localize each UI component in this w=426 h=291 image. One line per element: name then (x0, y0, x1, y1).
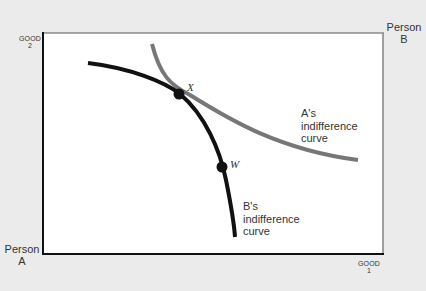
b-curve-label-line2: indifference (243, 213, 300, 226)
person-b-line2: B (384, 34, 424, 46)
b-curve-label: B's indifference curve (243, 200, 300, 238)
point-w-label: W (230, 158, 239, 170)
point-x (174, 89, 185, 100)
good1-label-line1: GOOD (356, 260, 382, 267)
b-curve-label-line3: curve (243, 225, 300, 238)
point-x-label: X (187, 81, 194, 93)
person-b-origin-label: Person B (384, 22, 424, 45)
good2-label-line1: GOOD (17, 35, 43, 42)
person-b-line1: Person (384, 22, 424, 34)
a-curve-label: A's indifference curve (301, 107, 358, 145)
good2-axis-label: GOOD 2 (17, 35, 43, 50)
point-w (217, 162, 228, 173)
diagram-canvas (0, 0, 426, 291)
a-curve-label-line3: curve (301, 132, 358, 145)
b-curve-label-line1: B's (243, 200, 300, 213)
person-a-line1: Person (2, 244, 42, 256)
good2-label-line2: 2 (17, 42, 43, 49)
good1-axis-label: GOOD 1 (356, 260, 382, 275)
person-a-origin-label: Person A (2, 244, 42, 267)
a-curve-label-line2: indifference (301, 120, 358, 133)
good1-label-line2: 1 (356, 267, 382, 274)
a-curve-label-line1: A's (301, 107, 358, 120)
person-a-line2: A (2, 256, 42, 268)
edgeworth-box-diagram: GOOD 2 GOOD 1 Person A Person B X W A's … (0, 0, 426, 291)
